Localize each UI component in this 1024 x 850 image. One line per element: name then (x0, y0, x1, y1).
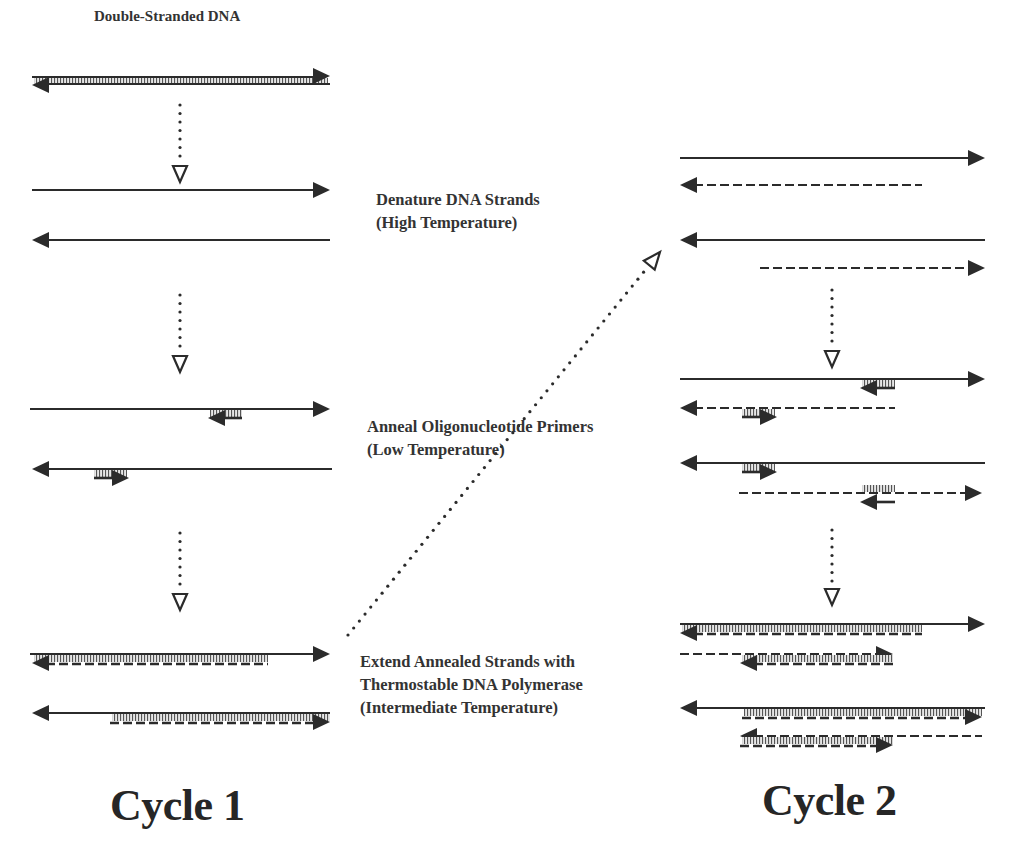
flow-dot (386, 585, 389, 588)
flow-dot (178, 582, 181, 585)
flow-dot (830, 322, 833, 325)
flow-dot (178, 540, 181, 543)
step-line: (Low Temperature) (367, 438, 593, 461)
new-dna-strand (680, 400, 895, 416)
arrowhead-icon (968, 371, 985, 387)
flow-dot (352, 626, 355, 629)
flow-dot (830, 305, 833, 308)
flow-dot (178, 310, 181, 313)
arrowhead-icon (32, 705, 49, 721)
flow-dot (369, 605, 372, 608)
flow-dot (420, 543, 423, 546)
dna-strand (680, 371, 985, 387)
hollow-arrowhead-icon (825, 351, 839, 367)
dna-strand (32, 182, 330, 198)
flow-dot (178, 129, 181, 132)
flow-dot (830, 554, 833, 557)
flow-dot (460, 494, 463, 497)
primer-icon (860, 485, 895, 510)
step-line: Anneal Oligonucleotide Primers (367, 415, 593, 438)
cycle-1-strands (30, 68, 332, 730)
flow-dot (830, 571, 833, 574)
base-pair-hatch (682, 625, 922, 632)
flow-dot (585, 340, 588, 343)
flow-dot (545, 389, 548, 392)
flow-dot (409, 557, 412, 560)
arrowhead-icon (32, 232, 49, 248)
flow-dot (178, 137, 181, 140)
flow-dot (346, 633, 349, 636)
flow-dot (534, 403, 537, 406)
arrowhead-icon (313, 646, 330, 662)
flow-dot (381, 592, 384, 595)
flow-dot (483, 466, 486, 469)
flow-dot (830, 537, 833, 540)
arrowhead-icon (968, 260, 985, 276)
arrowhead-icon (965, 485, 982, 501)
flow-dot (178, 154, 181, 157)
dna-strand (30, 401, 330, 417)
flow-dot (540, 396, 543, 399)
step-label-extend: Extend Annealed Strands with Thermostabl… (360, 650, 583, 719)
flow-dot (830, 339, 833, 342)
flow-dot (178, 574, 181, 577)
primer-hatch (862, 485, 895, 492)
flow-dot (830, 288, 833, 291)
flow-dot (426, 536, 429, 539)
extended-strand (740, 737, 893, 753)
step-line: Thermostable DNA Polymerase (360, 673, 583, 696)
step-line: (High Temperature) (376, 211, 540, 234)
flow-dot (415, 550, 418, 553)
arrowhead-icon (313, 182, 330, 198)
flow-dot (432, 529, 435, 532)
flow-dot (636, 278, 639, 281)
hollow-arrowhead-icon (644, 252, 660, 270)
base-pair-hatch (742, 655, 893, 662)
flow-dot (830, 528, 833, 531)
arrowhead-icon (680, 700, 697, 716)
flow-dot (551, 382, 554, 385)
flow-dot (178, 146, 181, 149)
flow-dot (358, 619, 361, 622)
arrowhead-icon (313, 401, 330, 417)
hollow-arrowhead-icon (825, 589, 839, 605)
arrowhead-icon (32, 461, 49, 477)
flow-dot (178, 120, 181, 123)
double-stranded-dna-label: Double-Stranded DNA (94, 8, 240, 25)
flow-arrow-icon (825, 288, 839, 367)
cycle-2-strands (680, 150, 985, 753)
extended-strand (680, 625, 922, 641)
flow-dot (830, 331, 833, 334)
flow-dot (602, 319, 605, 322)
base-pair-hatch (112, 714, 330, 721)
flow-dot (619, 298, 622, 301)
flow-dot (403, 564, 406, 567)
arrowhead-icon (860, 494, 877, 510)
flow-dot (443, 515, 446, 518)
flow-dot (178, 103, 181, 106)
primer-icon (742, 409, 777, 425)
flow-dot (178, 548, 181, 551)
flow-dot (591, 333, 594, 336)
flow-dot (178, 319, 181, 322)
flow-dot (449, 508, 452, 511)
primer-icon (94, 470, 129, 486)
arrowhead-icon (968, 150, 985, 166)
flow-dot (830, 545, 833, 548)
dna-strand (680, 232, 985, 248)
flow-dot (178, 557, 181, 560)
step-line: (Intermediate Temperature) (360, 696, 583, 719)
pcr-diagram: Double-Stranded DNA Denature DNA Strands… (0, 0, 1024, 850)
flow-dot (178, 344, 181, 347)
step-label-denature: Denature DNA Strands (High Temperature) (376, 188, 540, 234)
arrowhead-icon (680, 177, 697, 193)
extended-strand (742, 709, 982, 725)
flow-dot (178, 293, 181, 296)
cycle-1-label: Cycle 1 (110, 780, 245, 831)
base-pair-hatch (34, 655, 268, 662)
flow-dot (830, 314, 833, 317)
primer-icon (208, 410, 242, 426)
flow-dot (608, 312, 611, 315)
flow-dot (178, 302, 181, 305)
arrowhead-icon (680, 455, 697, 471)
